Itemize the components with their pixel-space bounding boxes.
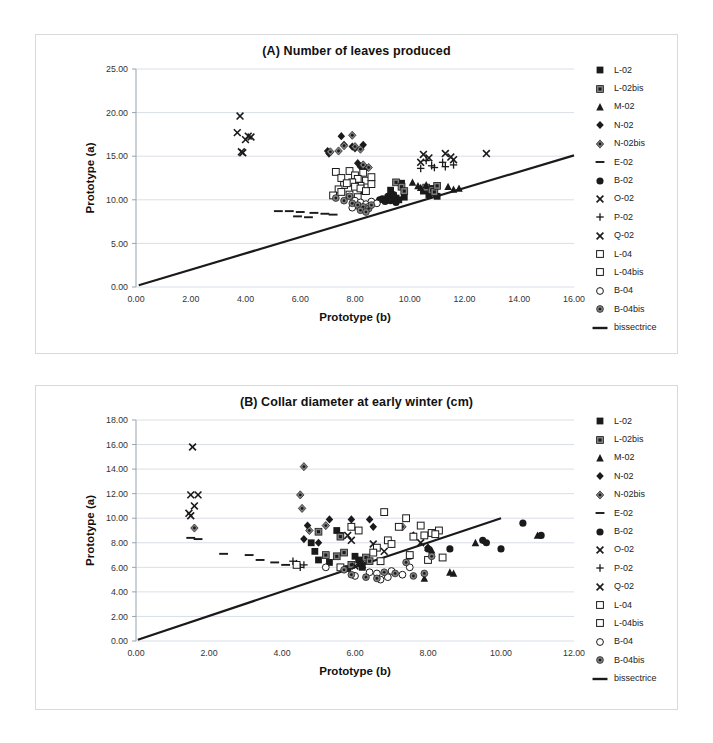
- y-tick-label: 10.00: [106, 513, 128, 523]
- open-square-icon: [592, 247, 608, 261]
- chart-a-plot-area: 0.005.0010.0015.0020.0025.000.002.004.00…: [36, 57, 592, 347]
- open-square-icon: [592, 616, 608, 630]
- plot-a-svg: 0.005.0010.0015.0020.0025.000.002.004.00…: [36, 57, 592, 347]
- x-tick-label: 12.00: [453, 294, 475, 304]
- legend-label: Q-02: [614, 231, 634, 240]
- y-axis-title: Prototype (a): [84, 142, 96, 213]
- legend-label: L-02: [614, 66, 632, 75]
- legend-label: B-02: [614, 527, 633, 536]
- legend-item-o-02[interactable]: O-02: [592, 541, 657, 559]
- legend-label: Q-02: [614, 582, 634, 591]
- series-e-02: [186, 537, 290, 566]
- chart-a-legend: L-02L-02bisM-02N-02N-02bisE-02B-02O-02P-…: [592, 61, 657, 337]
- chart-panel-b: (B) Collar diameter at early winter (cm)…: [35, 385, 678, 710]
- legend-item-l-04[interactable]: L-04: [592, 596, 657, 614]
- legend-label: L-02bis: [614, 84, 644, 93]
- open-circle-icon: [592, 284, 608, 298]
- legend-item-n-02bis[interactable]: N-02bis: [592, 486, 657, 504]
- legend-label: E-02: [614, 158, 633, 167]
- x-tick-label: 14.00: [508, 294, 530, 304]
- series-o-02: [234, 113, 254, 156]
- y-tick-label: 0.00: [111, 282, 128, 292]
- open-circle-icon: [592, 635, 608, 649]
- legend-label: L-04: [614, 250, 632, 259]
- legend-item-e-02[interactable]: E-02: [592, 504, 657, 522]
- legend-item-n-02[interactable]: N-02: [592, 467, 657, 485]
- grey-square-icon: [592, 433, 608, 447]
- x-tick-label: 16.00: [563, 294, 585, 304]
- legend-item-e-02[interactable]: E-02: [592, 153, 657, 171]
- y-tick-label: 15.00: [106, 151, 128, 161]
- grey-diamond-icon: [592, 137, 608, 151]
- chart-b-legend: L-02L-02bisM-02N-02N-02bisE-02B-02O-02P-…: [592, 412, 657, 688]
- y-tick-label: 14.00: [106, 464, 128, 474]
- legend-item-o-02[interactable]: O-02: [592, 190, 657, 208]
- filled-diamond-icon: [592, 118, 608, 132]
- dash-icon: [592, 506, 608, 520]
- filled-diamond-icon: [592, 469, 608, 483]
- cross-x-icon: [592, 580, 608, 594]
- legend-item-b-04[interactable]: B-04: [592, 282, 657, 300]
- x-tick-label: 0.00: [127, 648, 144, 658]
- legend-label: M-02: [614, 102, 635, 111]
- legend-item-n-02bis[interactable]: N-02bis: [592, 135, 657, 153]
- legend-item-b-04[interactable]: B-04: [592, 633, 657, 651]
- legend-item-l-04bis[interactable]: L-04bis: [592, 614, 657, 632]
- cross-x-icon: [592, 229, 608, 243]
- legend-item-l-04bis[interactable]: L-04bis: [592, 263, 657, 281]
- chart-b-plot-area: 0.002.004.006.008.0010.0012.0014.0016.00…: [36, 408, 592, 703]
- legend-item-bissectrice[interactable]: bissectrice: [592, 669, 657, 687]
- legend-item-m-02[interactable]: M-02: [592, 449, 657, 467]
- legend-label: E-02: [614, 509, 633, 518]
- legend-label: B-04bis: [614, 656, 645, 665]
- legend-label: L-02bis: [614, 435, 644, 444]
- y-tick-label: 25.00: [106, 64, 128, 74]
- legend-item-l-02bis[interactable]: L-02bis: [592, 430, 657, 448]
- legend-item-m-02[interactable]: M-02: [592, 98, 657, 116]
- x-tick-label: 10.00: [399, 294, 421, 304]
- grey-square-icon: [592, 82, 608, 96]
- legend-label: B-04: [614, 637, 633, 646]
- legend-item-l-02bis[interactable]: L-02bis: [592, 79, 657, 97]
- y-tick-label: 20.00: [106, 108, 128, 118]
- legend-item-q-02[interactable]: Q-02: [592, 227, 657, 245]
- legend-label: N-02: [614, 121, 634, 130]
- grey-diamond-icon: [592, 488, 608, 502]
- y-tick-label: 2.00: [111, 612, 128, 622]
- legend-item-l-02[interactable]: L-02: [592, 412, 657, 430]
- y-axis-title: Prototype (a): [84, 495, 96, 566]
- line-icon: [592, 321, 608, 335]
- legend-item-b-02[interactable]: B-02: [592, 171, 657, 189]
- x-axis-title: Prototype (b): [319, 311, 391, 323]
- legend-item-q-02[interactable]: Q-02: [592, 578, 657, 596]
- x-tick-label: 4.00: [237, 294, 254, 304]
- filled-square-icon: [592, 414, 608, 428]
- legend-item-b-04bis[interactable]: B-04bis: [592, 300, 657, 318]
- plus-icon: [592, 561, 608, 575]
- chart-a-title: (A) Number of leaves produced: [36, 44, 677, 58]
- filled-triangle-icon: [592, 100, 608, 114]
- series-o-02: [186, 444, 202, 520]
- legend-item-l-02[interactable]: L-02: [592, 61, 657, 79]
- legend-item-l-04[interactable]: L-04: [592, 245, 657, 263]
- series-e-02: [274, 210, 338, 218]
- legend-item-p-02[interactable]: P-02: [592, 559, 657, 577]
- filled-circle-icon: [592, 525, 608, 539]
- y-tick-label: 16.00: [106, 440, 128, 450]
- legend-label: N-02: [614, 472, 634, 481]
- y-tick-label: 4.00: [111, 587, 128, 597]
- legend-item-n-02[interactable]: N-02: [592, 116, 657, 134]
- legend-label: L-02: [614, 417, 632, 426]
- legend-item-bissectrice[interactable]: bissectrice: [592, 318, 657, 336]
- legend-item-b-04bis[interactable]: B-04bis: [592, 651, 657, 669]
- legend-label: N-02bis: [614, 490, 645, 499]
- grey-circle-icon: [592, 653, 608, 667]
- x-tick-label: 0.00: [127, 294, 144, 304]
- cross-x-icon: [592, 543, 608, 557]
- legend-label: B-04bis: [614, 305, 645, 314]
- y-tick-label: 12.00: [106, 489, 128, 499]
- line-icon: [592, 672, 608, 686]
- legend-item-b-02[interactable]: B-02: [592, 522, 657, 540]
- legend-label: B-02: [614, 176, 633, 185]
- legend-item-p-02[interactable]: P-02: [592, 208, 657, 226]
